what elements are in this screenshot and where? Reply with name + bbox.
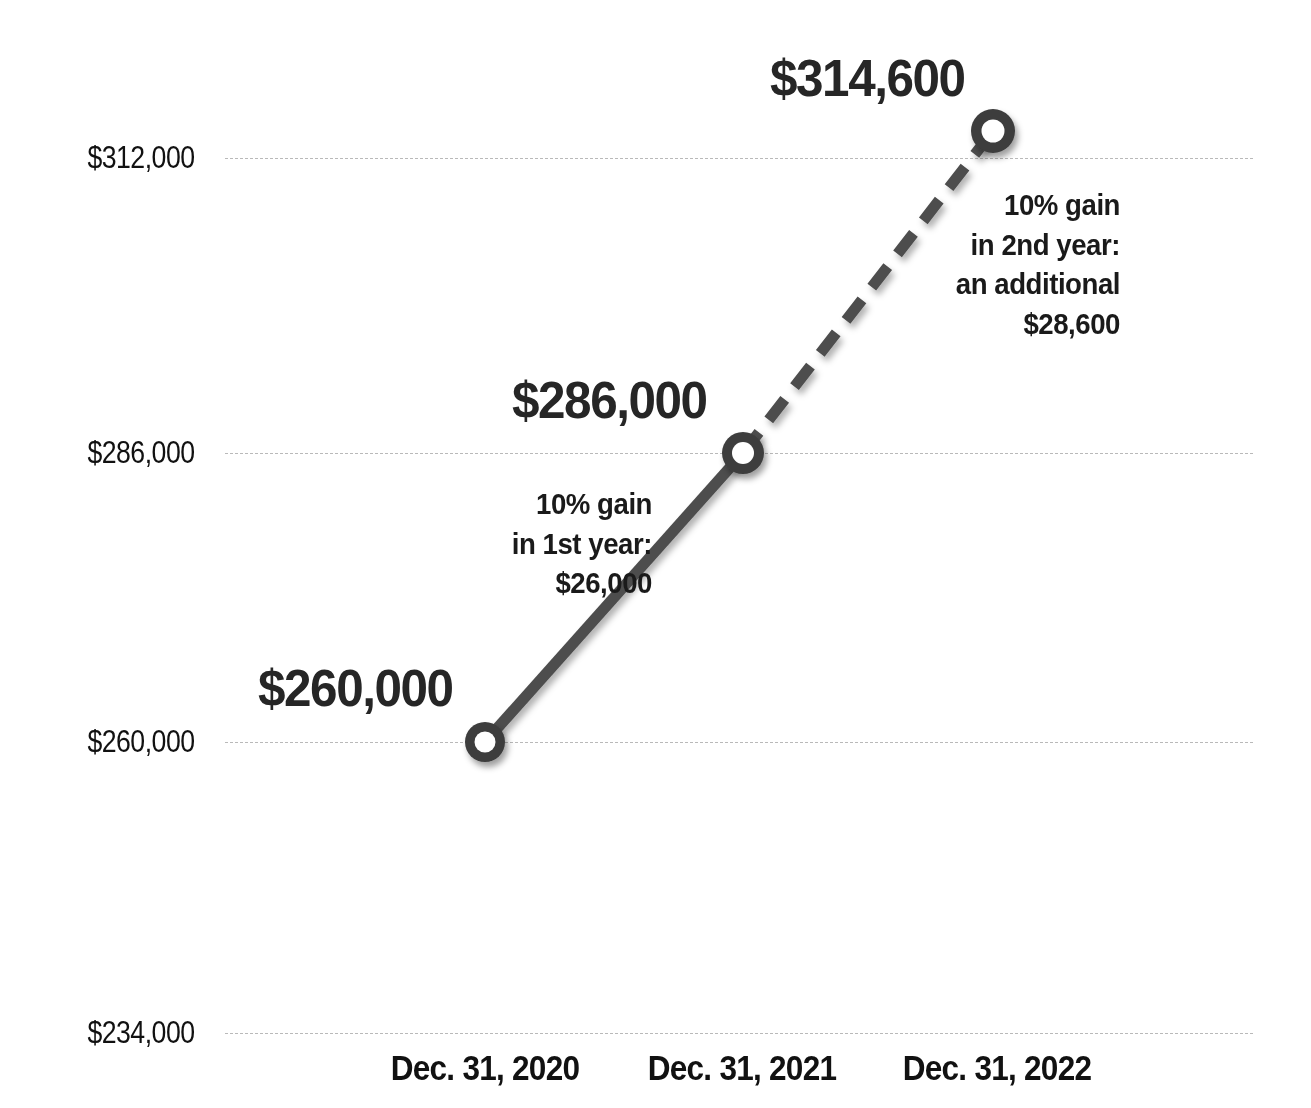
- y-axis-label-286000: $286,000: [87, 435, 194, 471]
- annotation-first-year-line3: $26,000: [418, 563, 652, 603]
- x-axis-label-2020: Dec. 31, 2020: [350, 1048, 620, 1088]
- gridline-312000: [224, 157, 1253, 160]
- annotation-second-year-gain: 10% gain in 2nd year: an additional $28,…: [862, 185, 1120, 343]
- annotation-second-year-line4: $28,600: [862, 304, 1120, 344]
- value-label-2020: $260,000: [258, 658, 453, 718]
- data-point-marker-2022: [971, 109, 1015, 153]
- x-axis-label-2022: Dec. 31, 2022: [862, 1048, 1132, 1088]
- y-axis-label-260000: $260,000: [87, 724, 194, 760]
- annotation-second-year-line2: in 2nd year:: [862, 225, 1120, 265]
- x-axis-label-2021: Dec. 31, 2021: [607, 1048, 877, 1088]
- y-axis-label-234000: $234,000: [87, 1015, 194, 1051]
- gridline-260000: [224, 741, 1253, 744]
- annotation-first-year-line2: in 1st year:: [418, 524, 652, 564]
- value-label-2022: $314,600: [770, 48, 965, 108]
- value-label-2021: $286,000: [512, 370, 707, 430]
- y-axis-label-312000: $312,000: [87, 140, 194, 176]
- gridline-234000: [224, 1032, 1253, 1035]
- data-point-marker-2022-core: [982, 120, 1005, 143]
- chart-container: $312,000 $286,000 $260,000 $234,000 $260: [0, 0, 1311, 1108]
- annotation-second-year-line1: 10% gain: [862, 185, 1120, 225]
- annotation-second-year-line3: an additional: [862, 264, 1120, 304]
- gridline-286000: [224, 452, 1253, 455]
- series-line-chart: [0, 0, 1311, 1108]
- annotation-first-year-line1: 10% gain: [418, 484, 652, 524]
- annotation-first-year-gain: 10% gain in 1st year: $26,000: [418, 484, 652, 603]
